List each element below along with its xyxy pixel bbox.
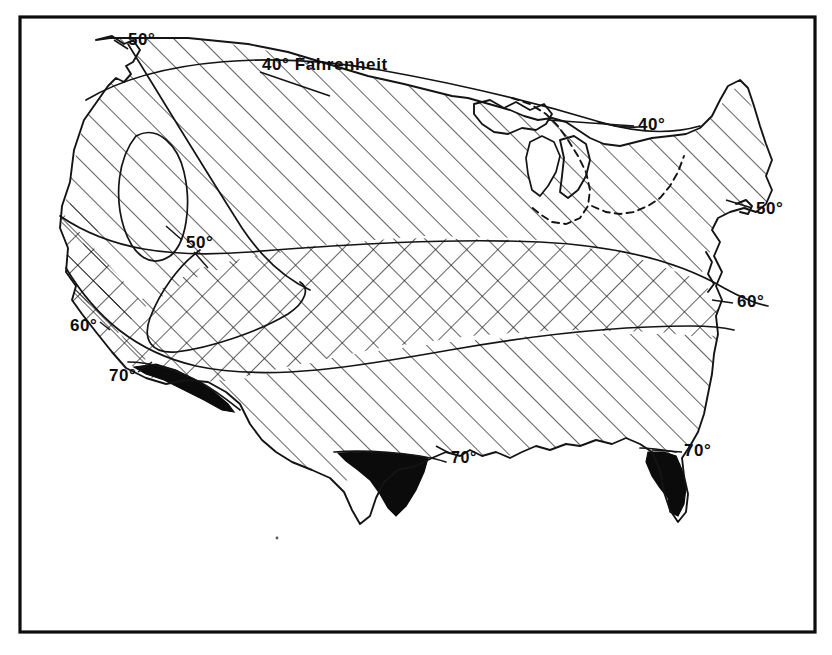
label-50-interior-west: 50°: [186, 233, 214, 252]
label-70-gulf: 70°: [451, 449, 477, 466]
label-50-northeast: 50°: [756, 199, 784, 218]
label-70-southwest: 70°: [109, 366, 137, 385]
label-70-florida: 70°: [684, 441, 712, 460]
figure-root: 50° 40° Fahrenheit 40° 50° 50° 60° 60° 7…: [0, 0, 832, 655]
scan-speck: [276, 537, 279, 540]
label-40-fahrenheit: 40° Fahrenheit: [262, 55, 388, 74]
label-50-northwest: 50°: [128, 30, 156, 49]
temperature-zones: [0, 0, 832, 655]
label-60-west-coast: 60°: [70, 316, 98, 335]
label-40-great-lakes: 40°: [638, 115, 666, 134]
label-60-east-coast: 60°: [737, 292, 765, 311]
isotherm-map-canvas: 50° 40° Fahrenheit 40° 50° 50° 60° 60° 7…: [0, 0, 832, 655]
